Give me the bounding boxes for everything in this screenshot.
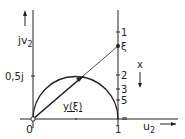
y-tick-label: 0,5j: [5, 71, 24, 82]
scale-label-1: 1: [121, 27, 127, 38]
x-axis-label: u2: [143, 120, 155, 135]
scale-direction-arrow-icon: [138, 83, 142, 88]
y-axis-label: jv2: [17, 34, 33, 49]
smith-semicircle-diagram: jv2 0,5j 0 1 u2 y(ξ) 1 ξ 2 3 5 ∞ x: [0, 0, 185, 139]
xi-point: [116, 44, 120, 48]
y-xi-vector: [33, 77, 82, 119]
scale-title: x: [137, 59, 143, 70]
scale-label-3: 3: [121, 84, 127, 95]
y-axis-arrow-icon: [23, 10, 27, 16]
origin-label: 0: [26, 123, 33, 136]
vector-label: y(ξ): [63, 101, 82, 112]
x-axis-arrow-icon: [171, 122, 176, 126]
origin-point: [31, 117, 35, 121]
scale-label-inf: ∞: [121, 114, 128, 123]
x-tick-label: 1: [115, 124, 121, 135]
scale-label-5: 5: [121, 95, 127, 106]
scale-label-xi: ξ: [121, 41, 127, 52]
scale-label-2: 2: [121, 70, 127, 81]
